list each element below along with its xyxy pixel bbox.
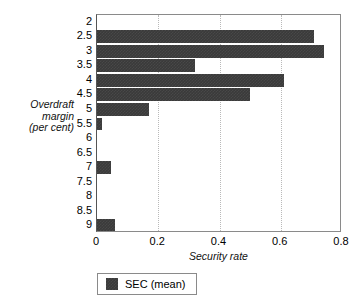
- y-axis-tick-label: 5: [58, 103, 92, 114]
- bar: [97, 88, 250, 101]
- x-axis-tick-labels: 00.20.40.60.8: [96, 235, 341, 249]
- y-axis-tick-label: 3: [58, 45, 92, 56]
- x-axis-tick-label: 0.8: [321, 235, 361, 247]
- x-axis-tick-label: 0: [76, 235, 116, 247]
- y-axis-tick-label: 8: [58, 190, 92, 201]
- plot-area: [96, 14, 341, 232]
- legend-swatch-sec-mean: [106, 278, 118, 290]
- y-axis-tick-label: 7: [58, 161, 92, 172]
- x-axis-tick-label: 0.2: [137, 235, 177, 247]
- y-axis-tick-label: 6: [58, 132, 92, 143]
- x-axis-tick-label: 0.6: [260, 235, 300, 247]
- bar-chart-figure: Overdraft margin (per cent) 22.533.544.5…: [0, 0, 363, 307]
- bar: [97, 45, 324, 58]
- x-axis-title: Security rate: [96, 250, 341, 262]
- y-axis-tick-label: 4: [58, 74, 92, 85]
- bar: [97, 30, 314, 43]
- y-axis-tick-label: 6.5: [58, 147, 92, 158]
- bar: [97, 118, 102, 131]
- y-axis-tick-label: 3.5: [58, 59, 92, 70]
- y-axis-tick-label: 4.5: [58, 88, 92, 99]
- y-axis-tick-label: 5.5: [58, 118, 92, 129]
- legend-label-sec-mean: SEC (mean): [125, 278, 186, 290]
- bar: [97, 103, 149, 116]
- y-axis-tick-label: 2: [58, 16, 92, 27]
- y-axis-tick-label: 9: [58, 219, 92, 230]
- bar: [97, 219, 115, 232]
- y-axis-tick-label: 8.5: [58, 205, 92, 216]
- y-axis-tick-label: 2.5: [58, 30, 92, 41]
- x-axis-tick-label: 0.4: [199, 235, 239, 247]
- bar: [97, 74, 284, 87]
- y-axis-tick-label: 7.5: [58, 176, 92, 187]
- chart-legend: SEC (mean): [97, 273, 197, 295]
- bar: [97, 161, 111, 174]
- y-axis-tick-labels: 22.533.544.555.566.577.588.59: [58, 14, 92, 232]
- bar: [97, 59, 195, 72]
